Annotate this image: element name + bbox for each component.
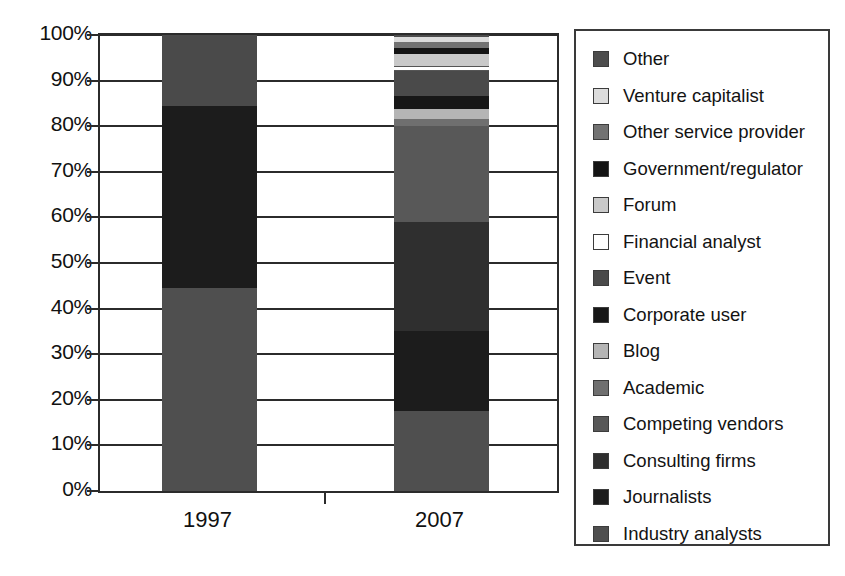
legend-swatch-icon bbox=[593, 380, 609, 396]
legend-item[interactable]: Industry analysts bbox=[576, 516, 828, 553]
y-axis-tick-label: 10% bbox=[8, 432, 92, 453]
y-axis-tick-label: 0% bbox=[8, 478, 92, 499]
legend-item[interactable]: Academic bbox=[576, 370, 828, 407]
legend-label: Other service provider bbox=[623, 122, 805, 142]
legend-swatch-icon bbox=[593, 416, 609, 432]
y-axis-tick-label: 90% bbox=[8, 68, 92, 89]
legend-swatch-icon bbox=[593, 526, 609, 542]
legend-item[interactable]: Venture capitalist bbox=[576, 78, 828, 115]
bar-segment[interactable] bbox=[394, 35, 489, 37]
y-tick-mark bbox=[87, 125, 99, 127]
legend-label: Journalists bbox=[623, 487, 711, 507]
x-axis-tick-label: 2007 bbox=[360, 508, 520, 532]
bar-1997[interactable] bbox=[162, 35, 257, 491]
legend-item[interactable]: Forum bbox=[576, 187, 828, 224]
legend-label: Industry analysts bbox=[623, 524, 762, 544]
legend-swatch-icon bbox=[593, 453, 609, 469]
y-tick-mark bbox=[87, 262, 99, 264]
legend-swatch-icon bbox=[593, 124, 609, 140]
legend-label: Other bbox=[623, 49, 669, 69]
legend-item[interactable]: Other bbox=[576, 41, 828, 78]
legend-item[interactable]: Corporate user bbox=[576, 297, 828, 334]
bar-segment[interactable] bbox=[394, 54, 489, 66]
bar-segment[interactable] bbox=[394, 42, 489, 48]
legend-swatch-icon bbox=[593, 270, 609, 286]
bar-segment[interactable] bbox=[394, 411, 489, 491]
bar-segment[interactable] bbox=[394, 222, 489, 331]
legend-swatch-icon bbox=[593, 88, 609, 104]
bar-segment[interactable] bbox=[394, 119, 489, 126]
y-tick-mark bbox=[87, 308, 99, 310]
y-axis-tick-label: 40% bbox=[8, 296, 92, 317]
bar-segment[interactable] bbox=[394, 96, 489, 110]
bar-2007[interactable] bbox=[394, 35, 489, 491]
legend-swatch-icon bbox=[593, 307, 609, 323]
legend-item[interactable]: Blog bbox=[576, 333, 828, 370]
y-tick-mark bbox=[87, 490, 99, 492]
y-axis-tick-label: 50% bbox=[8, 250, 92, 271]
legend-label: Corporate user bbox=[623, 305, 746, 325]
stacked-bar-chart: 0%10%20%30%40%50%60%70%80%90%100% 199720… bbox=[0, 0, 845, 576]
bar-segment[interactable] bbox=[394, 66, 489, 71]
legend-item[interactable]: Competing vendors bbox=[576, 406, 828, 443]
legend-label: Government/regulator bbox=[623, 159, 803, 179]
y-axis: 0%10%20%30%40%50%60%70%80%90%100% bbox=[0, 0, 92, 576]
legend-item[interactable]: Event bbox=[576, 260, 828, 297]
y-axis-tick-label: 100% bbox=[8, 22, 92, 43]
legend-item[interactable]: Journalists bbox=[576, 479, 828, 516]
legend-swatch-icon bbox=[593, 197, 609, 213]
legend-item[interactable]: Other service provider bbox=[576, 114, 828, 151]
bar-segment[interactable] bbox=[394, 37, 489, 42]
legend-label: Blog bbox=[623, 341, 660, 361]
y-tick-mark bbox=[87, 80, 99, 82]
legend-label: Event bbox=[623, 268, 670, 288]
bar-segment[interactable] bbox=[394, 126, 489, 222]
y-axis-tick-label: 70% bbox=[8, 159, 92, 180]
y-tick-mark bbox=[87, 171, 99, 173]
bar-segment[interactable] bbox=[394, 331, 489, 411]
bar-segment[interactable] bbox=[394, 48, 489, 54]
y-tick-mark bbox=[87, 399, 99, 401]
y-tick-mark bbox=[87, 34, 99, 36]
bar-segment[interactable] bbox=[162, 288, 257, 491]
legend-label: Consulting firms bbox=[623, 451, 756, 471]
legend-item[interactable]: Financial analyst bbox=[576, 224, 828, 261]
legend-swatch-icon bbox=[593, 489, 609, 505]
x-axis-tick-label: 1997 bbox=[128, 508, 288, 532]
x-axis-center-tick bbox=[324, 491, 326, 504]
legend-swatch-icon bbox=[593, 51, 609, 67]
y-axis-tick-label: 20% bbox=[8, 387, 92, 408]
plot-area bbox=[98, 33, 559, 493]
bar-segment[interactable] bbox=[162, 35, 257, 106]
legend-item[interactable]: Consulting firms bbox=[576, 443, 828, 480]
legend-swatch-icon bbox=[593, 234, 609, 250]
chart-legend: OtherVenture capitalistOther service pro… bbox=[574, 29, 830, 546]
legend-label: Academic bbox=[623, 378, 704, 398]
bar-segment[interactable] bbox=[394, 71, 489, 96]
legend-label: Forum bbox=[623, 195, 676, 215]
y-tick-mark bbox=[87, 444, 99, 446]
bar-segment[interactable] bbox=[394, 109, 489, 119]
legend-item[interactable]: Government/regulator bbox=[576, 151, 828, 188]
y-tick-mark bbox=[87, 353, 99, 355]
y-axis-tick-label: 80% bbox=[8, 113, 92, 134]
legend-swatch-icon bbox=[593, 343, 609, 359]
y-tick-mark bbox=[87, 216, 99, 218]
legend-swatch-icon bbox=[593, 161, 609, 177]
legend-label: Venture capitalist bbox=[623, 86, 764, 106]
y-axis-tick-label: 30% bbox=[8, 341, 92, 362]
bar-segment[interactable] bbox=[162, 106, 257, 288]
y-axis-tick-label: 60% bbox=[8, 204, 92, 225]
legend-label: Financial analyst bbox=[623, 232, 761, 252]
legend-label: Competing vendors bbox=[623, 414, 783, 434]
